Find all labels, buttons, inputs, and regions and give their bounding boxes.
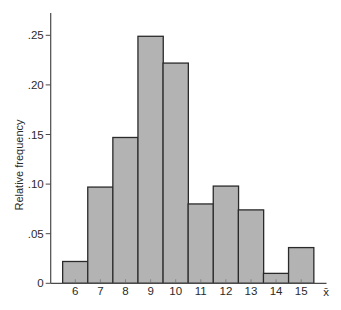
x-tick-label: 14 xyxy=(270,285,283,297)
x-axis-ticks: 6789101112131415 xyxy=(72,285,308,297)
x-tick-label: 7 xyxy=(97,285,103,297)
y-tick-label: .15 xyxy=(28,129,44,141)
histogram-bar xyxy=(213,186,238,283)
x-tick-label: 13 xyxy=(245,285,258,297)
x-tick-label: 12 xyxy=(220,285,233,297)
y-tick-label: 0 xyxy=(37,277,43,289)
x-tick-label: 6 xyxy=(72,285,78,297)
histogram-bar xyxy=(289,248,314,284)
histogram-bar xyxy=(138,36,163,283)
x-tick-label: 10 xyxy=(169,285,182,297)
y-axis-ticks: 0.05.10.15.20.25 xyxy=(28,29,51,289)
y-axis-title: Relative frequency xyxy=(13,119,25,211)
histogram-bar xyxy=(88,187,113,283)
histogram-bar xyxy=(113,137,138,283)
x-tick-label: 15 xyxy=(295,285,308,297)
x-axis-title: x̄ xyxy=(323,286,329,298)
y-tick-label: .25 xyxy=(28,29,44,41)
histogram-bar xyxy=(188,204,213,283)
y-tick-label: .05 xyxy=(28,228,44,240)
y-tick-label: .10 xyxy=(28,178,44,190)
bars-group xyxy=(63,36,314,283)
y-tick-label: .20 xyxy=(28,79,44,91)
x-tick-label: 8 xyxy=(122,285,128,297)
histogram-chart: 0.05.10.15.20.25 6789101112131415 Relati… xyxy=(0,0,341,310)
histogram-bar xyxy=(238,210,263,283)
histogram-bar xyxy=(163,63,188,283)
x-tick-label: 9 xyxy=(147,285,153,297)
x-tick-label: 11 xyxy=(195,285,207,297)
